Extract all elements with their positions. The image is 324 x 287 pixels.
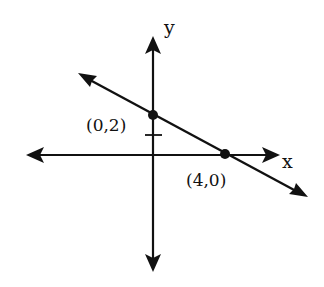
- point-label-x-intercept: (4,0): [186, 172, 226, 189]
- point-x-intercept: [220, 149, 230, 159]
- point-y-intercept: [148, 110, 158, 120]
- x-axis-label: x: [282, 152, 293, 171]
- coordinate-plane: [0, 0, 324, 287]
- point-label-y-intercept: (0,2): [86, 117, 126, 134]
- y-axis-label: y: [164, 18, 175, 37]
- line-upper-arrow-icon: [78, 73, 97, 87]
